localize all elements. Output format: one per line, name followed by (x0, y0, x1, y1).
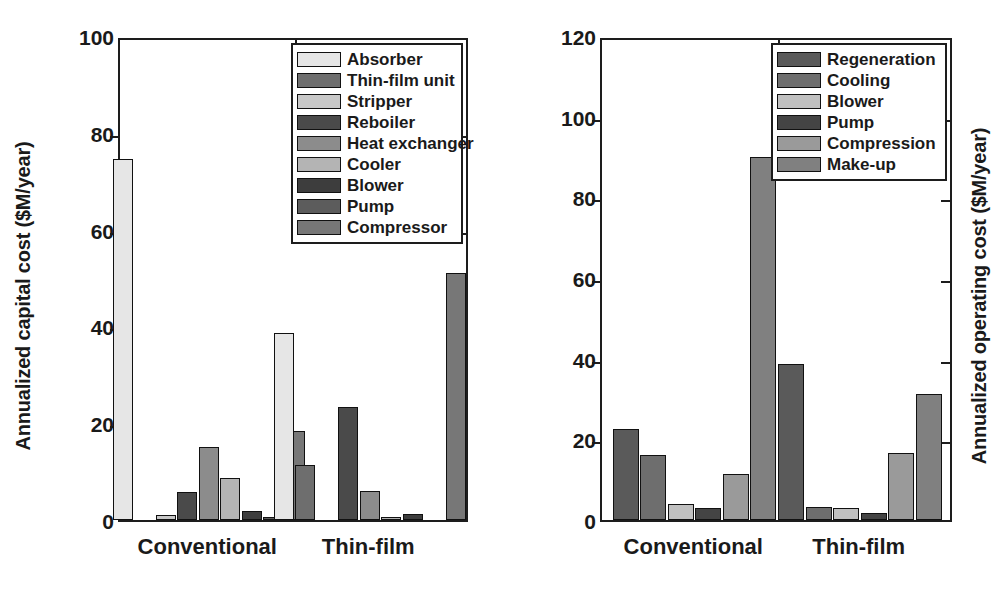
y-tick-label: 40 (91, 316, 114, 340)
bar (833, 508, 859, 520)
legend-label: Absorber (347, 51, 423, 68)
legend-swatch (777, 115, 821, 130)
y-tick-label: 100 (79, 26, 114, 50)
bar (242, 511, 262, 520)
legend-swatch (777, 157, 821, 172)
bar (295, 465, 315, 520)
legend-item: Pump (297, 196, 456, 217)
y-axis-tick-right (941, 362, 950, 364)
legend-label: Reboiler (347, 114, 415, 131)
y-axis-title-capital: Annualized capital cost ($M/year) (6, 0, 40, 592)
panel-operating-cost: Annualized operating cost ($M/year) Rege… (484, 0, 968, 592)
y-tick-label: 80 (91, 123, 114, 147)
legend-label: Compressor (347, 219, 447, 236)
bar (113, 159, 133, 520)
legend-item: Cooler (297, 154, 456, 175)
bar (640, 455, 666, 520)
legend-label: Pump (827, 114, 874, 131)
legend-swatch (297, 220, 341, 235)
legend-swatch (777, 136, 821, 151)
y-tick-label: 80 (573, 187, 596, 211)
legend-item: Pump (777, 112, 940, 133)
legend-swatch (297, 157, 341, 172)
bar (220, 478, 240, 520)
legend-label: Pump (347, 198, 394, 215)
legend-label: Blower (347, 177, 404, 194)
bar (360, 491, 380, 520)
legend-swatch (297, 52, 341, 67)
panel-capital-cost: Annualized capital cost ($M/year) Absorb… (0, 0, 484, 592)
y-tick-label: 0 (102, 510, 114, 534)
legend-item: Blower (297, 175, 456, 196)
y-axis-tick-right (941, 442, 950, 444)
legend-label: Cooler (347, 156, 401, 173)
legend-label: Stripper (347, 93, 412, 110)
legend-operating: RegenerationCoolingBlowerPumpCompression… (771, 43, 947, 181)
legend-item: Heat exchanger (297, 133, 456, 154)
legend-swatch (297, 178, 341, 193)
bar (888, 453, 914, 520)
legend-swatch (297, 73, 341, 88)
y-tick-label: 60 (573, 268, 596, 292)
legend-capital: AbsorberThin-film unitStripperReboilerHe… (291, 43, 463, 244)
bar (723, 474, 749, 520)
legend-item: Make-up (777, 154, 940, 175)
y-tick-label: 40 (573, 349, 596, 373)
legend-label: Heat exchanger (347, 135, 474, 152)
x-tick-label-conventional: Conventional (138, 534, 277, 560)
bar (668, 504, 694, 520)
axes-capital: AbsorberThin-film unitStripperReboilerHe… (118, 38, 468, 522)
legend-item: Cooling (777, 70, 940, 91)
bar (695, 508, 721, 520)
legend-swatch (297, 94, 341, 109)
legend-swatch (297, 136, 341, 151)
x-tick-label-thin-film: Thin-film (812, 534, 905, 560)
legend-swatch (777, 73, 821, 88)
y-axis-tick-right (941, 200, 950, 202)
bar (778, 364, 804, 520)
legend-swatch (777, 52, 821, 67)
legend-item: Regeneration (777, 49, 940, 70)
y-tick-label: 0 (584, 510, 596, 534)
x-tick-label-thin-film: Thin-film (322, 534, 415, 560)
y-tick-label: 20 (91, 413, 114, 437)
bar (916, 394, 942, 520)
y-tick-label: 20 (573, 429, 596, 453)
bar (806, 507, 832, 520)
bar (750, 157, 776, 520)
bar (156, 515, 176, 520)
legend-swatch (297, 199, 341, 214)
legend-label: Regeneration (827, 51, 936, 68)
bar (381, 517, 401, 520)
axes-operating: RegenerationCoolingBlowerPumpCompression… (600, 38, 952, 522)
legend-label: Compression (827, 135, 936, 152)
bar (274, 333, 294, 520)
legend-item: Compressor (297, 217, 456, 238)
bar (613, 429, 639, 520)
bar (177, 492, 197, 520)
legend-item: Thin-film unit (297, 70, 456, 91)
bar (446, 273, 466, 520)
legend-label: Cooling (827, 72, 890, 89)
legend-label: Make-up (827, 156, 896, 173)
legend-label: Blower (827, 93, 884, 110)
legend-item: Stripper (297, 91, 456, 112)
x-tick-label-conventional: Conventional (624, 534, 763, 560)
legend-label: Thin-film unit (347, 72, 455, 89)
legend-item: Reboiler (297, 112, 456, 133)
legend-item: Blower (777, 91, 940, 112)
bar (403, 514, 423, 520)
y-tick-label: 120 (561, 26, 596, 50)
bar (199, 447, 219, 520)
y-axis-tick-right (941, 281, 950, 283)
y-tick-label: 60 (91, 220, 114, 244)
y-axis-title-operating: Annualized operating cost ($M/year) (962, 0, 995, 592)
legend-swatch (777, 94, 821, 109)
y-tick-label: 100 (561, 107, 596, 131)
legend-swatch (297, 115, 341, 130)
bar (861, 513, 887, 520)
bar (338, 407, 358, 520)
legend-item: Compression (777, 133, 940, 154)
legend-item: Absorber (297, 49, 456, 70)
